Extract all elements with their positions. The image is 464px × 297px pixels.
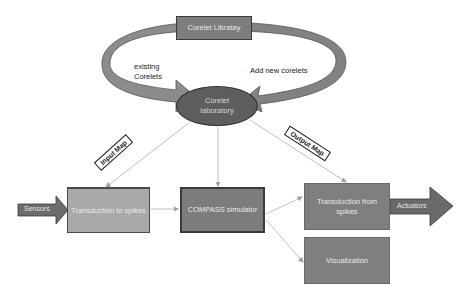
visualization-label: Visualization <box>326 256 368 265</box>
edge-compass-to-visualization <box>266 220 303 262</box>
corelet-laboratory-node[interactable]: Corelet laboratory <box>176 86 258 126</box>
existing-corelets-label: existing Corelets <box>134 62 162 82</box>
compass-simulator-node[interactable]: COMPASS simulator <box>180 187 265 233</box>
transduction-to-spikes-label: Transduction to spikes <box>71 206 146 215</box>
compass-simulator-label: COMPASS simulator <box>188 205 257 214</box>
edge-lab-to-transduction-from <box>250 120 346 182</box>
add-new-corelets-label: Add new corelets <box>250 66 308 76</box>
transduction-from-spikes-label-1: Transduction from <box>317 197 377 206</box>
edge-compass-to-transduction-from <box>266 197 302 214</box>
corelet-laboratory-label-2: laboratory <box>200 106 233 116</box>
actuators-label: Actuators <box>397 202 427 209</box>
corelet-laboratory-label-1: Corelet <box>200 96 233 106</box>
diagram-canvas <box>0 0 464 297</box>
sensors-label: Sensors <box>24 205 50 212</box>
corelet-library-node[interactable]: Corelet Libratay <box>176 16 252 40</box>
existing-corelets-line-2: Corelets <box>134 72 162 82</box>
transduction-to-spikes-node[interactable]: Transduction to spikes <box>67 187 150 233</box>
visualization-node[interactable]: Visualization <box>304 237 390 284</box>
transduction-from-spikes-label-2: spikes <box>317 207 377 216</box>
transduction-from-spikes-node[interactable]: Transduction from spikes <box>304 183 390 230</box>
corelet-library-label: Corelet Libratay <box>188 23 241 32</box>
existing-corelets-line-1: existing <box>134 62 162 72</box>
